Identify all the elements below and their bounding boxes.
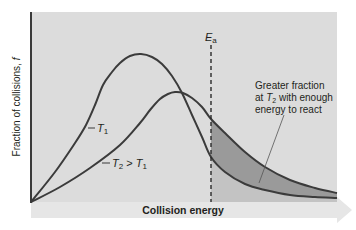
callout-line-2: at T2 with enough bbox=[255, 92, 333, 104]
t2-label: T2 > T1 bbox=[112, 157, 147, 171]
callout-line-1: Greater fraction bbox=[255, 80, 324, 91]
callout-line-3: energy to react bbox=[255, 104, 322, 115]
y-axis-label: Fraction of collisions, f bbox=[11, 56, 22, 156]
maxwell-boltzmann-chart: Ea T1 T2 > T1 Greater fraction at T2 wit… bbox=[0, 0, 356, 230]
x-axis-label: Collision energy bbox=[142, 204, 224, 216]
